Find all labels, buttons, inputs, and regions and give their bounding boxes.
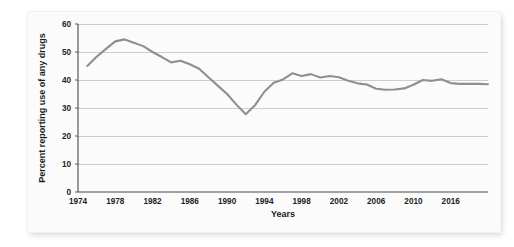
x-tick-label: 1998 — [293, 197, 312, 206]
y-axis-title: Percent reporting use of any drugs — [37, 33, 47, 183]
x-tick-label: 2006 — [367, 197, 386, 206]
data-series-line — [87, 39, 488, 114]
x-tick-label: 1994 — [255, 197, 274, 206]
x-tick-label: 1990 — [218, 197, 237, 206]
x-tick-label: 2010 — [404, 197, 423, 206]
y-tick-label: 10 — [62, 160, 72, 169]
x-tick-label: 1974 — [69, 197, 88, 206]
y-tick-label: 20 — [62, 132, 72, 141]
y-tick-label: 60 — [62, 20, 72, 29]
x-axis-ticks: 1974197819821986199019941998200220062010… — [69, 197, 460, 206]
y-tick-label: 0 — [66, 188, 71, 197]
chart-plot-area: 0102030405060 19741978198219861990199419… — [0, 0, 514, 247]
x-tick-label: 1986 — [181, 197, 200, 206]
y-tick-label: 50 — [62, 48, 72, 57]
x-tick-label: 2016 — [442, 197, 461, 206]
x-tick-label: 2002 — [330, 197, 349, 206]
y-tick-label: 30 — [62, 104, 72, 113]
x-tick-label: 1978 — [106, 197, 125, 206]
y-axis-ticks: 0102030405060 — [62, 20, 78, 197]
y-tick-label: 40 — [62, 76, 72, 85]
x-tick-label: 1982 — [143, 197, 162, 206]
x-axis-title: Years — [271, 209, 295, 219]
line-chart: 0102030405060 19741978198219861990199419… — [0, 0, 514, 247]
figure-root: 0102030405060 19741978198219861990199419… — [0, 0, 514, 247]
